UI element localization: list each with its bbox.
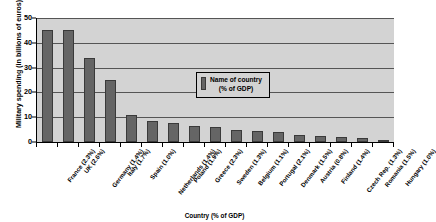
legend-label-line2: (% of GDP) — [210, 85, 262, 94]
x-tick-mark — [246, 143, 247, 147]
bar-slot — [58, 18, 79, 142]
bar — [126, 115, 137, 142]
x-tick-mark — [183, 143, 184, 147]
bar — [189, 126, 200, 142]
bar-slot — [79, 18, 100, 142]
legend-label-line1: Name of country — [210, 76, 262, 83]
bar-slot — [352, 18, 373, 142]
bar — [168, 123, 179, 142]
y-tick-label: 10 — [14, 114, 32, 121]
bar — [336, 137, 347, 142]
bar-slot — [121, 18, 142, 142]
x-tick-mark — [225, 143, 226, 147]
y-tick-label: 20 — [14, 89, 32, 96]
x-tick-mark — [204, 143, 205, 147]
bar-slot — [268, 18, 289, 142]
x-tick-mark — [351, 143, 352, 147]
bar — [210, 127, 221, 142]
bar — [105, 80, 116, 142]
x-tick-mark — [330, 143, 331, 147]
x-axis-category-labels: France (2.3%)UK (2.6%)Germany (1.4%)Ital… — [36, 148, 393, 222]
y-axis-tick-labels: 01020304050 — [14, 18, 32, 142]
bar — [273, 132, 284, 142]
x-tick-mark — [141, 143, 142, 147]
bar — [231, 130, 242, 142]
x-tick-mark — [162, 143, 163, 147]
bar-slot — [100, 18, 121, 142]
x-tick-mark — [267, 143, 268, 147]
bar — [147, 121, 158, 142]
x-tick-mark — [288, 143, 289, 147]
bar-slot — [310, 18, 331, 142]
chart-legend: Name of country (% of GDP) — [196, 72, 270, 98]
bar — [63, 30, 74, 142]
y-tick-label: 30 — [14, 64, 32, 71]
bar-slot — [373, 18, 394, 142]
x-axis-label: Spain (1.0%) — [149, 148, 177, 181]
bar — [315, 136, 326, 142]
bar — [252, 131, 263, 142]
bar-slot — [289, 18, 310, 142]
bar — [378, 140, 389, 142]
x-tick-mark — [393, 143, 394, 147]
legend-label: Name of country (% of GDP) — [210, 76, 262, 94]
legend-swatch-icon — [201, 77, 206, 90]
x-axis-title: Country (% of GDP) — [36, 212, 393, 219]
x-tick-mark — [57, 143, 58, 147]
x-tick-mark — [372, 143, 373, 147]
x-tick-mark — [309, 143, 310, 147]
bar-slot — [37, 18, 58, 142]
bar — [42, 30, 53, 142]
y-tick-label: 50 — [14, 14, 32, 21]
bar — [357, 138, 368, 142]
y-tick-label: 40 — [14, 39, 32, 46]
bar — [294, 135, 305, 142]
y-tick-label: 0 — [14, 138, 32, 145]
x-tick-mark — [78, 143, 79, 147]
bar-slot — [142, 18, 163, 142]
x-tick-mark — [36, 143, 37, 147]
bar — [84, 58, 95, 142]
x-tick-mark — [120, 143, 121, 147]
bar-slot — [331, 18, 352, 142]
bar-slot — [163, 18, 184, 142]
